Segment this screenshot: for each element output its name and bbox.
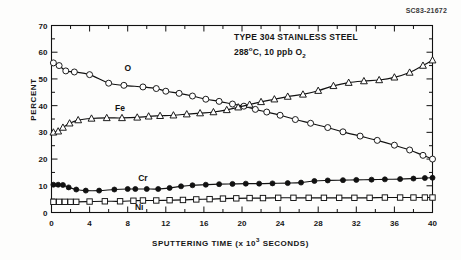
series-marker-ni xyxy=(275,195,280,200)
series-marker-ni xyxy=(102,199,107,204)
series-marker-ni xyxy=(154,198,159,203)
series-marker-o xyxy=(121,82,127,88)
series-marker-o xyxy=(176,90,182,96)
x-tick-label: 8 xyxy=(125,219,129,228)
series-marker-ni xyxy=(62,199,67,204)
series-marker-o xyxy=(203,96,209,102)
series-label-cr: Cr xyxy=(138,173,147,183)
series-marker-o xyxy=(216,98,222,104)
series-marker-cr xyxy=(340,178,345,183)
series-marker-ni xyxy=(207,196,212,201)
series-marker-o xyxy=(56,63,62,69)
series-line-ni xyxy=(53,198,432,202)
series-marker-cr xyxy=(60,182,65,187)
x-tick-label: 28 xyxy=(314,219,323,228)
series-marker-o xyxy=(163,88,169,94)
series-marker-ni xyxy=(117,199,122,204)
y-tick-label: 40 xyxy=(39,101,48,110)
series-marker-ni xyxy=(321,195,326,200)
series-marker-o xyxy=(87,72,93,78)
series-label-fe: Fe xyxy=(115,103,125,113)
series-marker-cr xyxy=(422,176,427,181)
x-tick-label: 40 xyxy=(428,219,437,228)
series-marker-cr xyxy=(257,181,262,186)
series-marker-o xyxy=(430,156,436,162)
series-marker-cr xyxy=(74,187,79,192)
series-line-o xyxy=(53,63,432,159)
series-marker-cr xyxy=(299,180,304,185)
series-marker-o xyxy=(308,120,314,126)
series-marker-o xyxy=(374,137,380,143)
y-tick-label: 30 xyxy=(39,128,48,137)
series-marker-o xyxy=(50,60,56,66)
series-marker-o xyxy=(357,133,363,139)
y-tick-label: 20 xyxy=(39,155,48,164)
series-marker-ni xyxy=(352,195,357,200)
x-tick-label: 20 xyxy=(238,219,247,228)
x-tick-label: 24 xyxy=(276,219,285,228)
series-marker-cr xyxy=(167,185,172,190)
series-marker-o xyxy=(229,101,235,107)
series-marker-o xyxy=(391,142,397,148)
y-tick-label: 10 xyxy=(39,181,48,190)
series-marker-cr xyxy=(382,177,387,182)
x-tick-label: 16 xyxy=(199,219,208,228)
series-marker-ni xyxy=(367,195,372,200)
series-label-o: O xyxy=(124,63,131,73)
series-marker-ni xyxy=(68,199,73,204)
series-marker-ni xyxy=(291,195,296,200)
series-marker-ni xyxy=(422,195,427,200)
series-label-ni: Ni xyxy=(135,202,144,212)
series-marker-o xyxy=(292,117,298,123)
series-marker-ni xyxy=(56,199,61,204)
series-marker-cr xyxy=(83,188,88,193)
series-marker-cr xyxy=(190,183,195,188)
series-marker-cr xyxy=(230,181,235,186)
x-tick-label: 4 xyxy=(87,219,91,228)
series-marker-ni xyxy=(430,195,435,200)
series-marker-fe xyxy=(429,57,436,63)
series-line-fe xyxy=(53,60,432,132)
x-tick-label: 12 xyxy=(161,219,170,228)
series-marker-ni xyxy=(194,197,199,202)
y-tick-label: 60 xyxy=(39,48,48,57)
series-marker-cr xyxy=(312,178,317,183)
series-marker-ni xyxy=(87,199,92,204)
series-marker-o xyxy=(106,80,112,86)
series-marker-fe xyxy=(66,120,73,126)
series-marker-ni xyxy=(234,196,239,201)
series-marker-ni xyxy=(74,199,79,204)
series-marker-cr xyxy=(56,182,61,187)
x-tick-label: 32 xyxy=(352,219,361,228)
series-marker-cr xyxy=(369,177,374,182)
y-tick-label: 50 xyxy=(39,74,48,83)
series-marker-fe xyxy=(420,62,427,68)
series-marker-cr xyxy=(203,182,208,187)
series-marker-cr xyxy=(285,181,290,186)
series-marker-fe xyxy=(60,124,67,130)
series-marker-ni xyxy=(167,198,172,203)
series-marker-ni xyxy=(260,195,265,200)
series-marker-cr xyxy=(144,186,149,191)
series-marker-cr xyxy=(270,181,275,186)
figure-container: SC83-21672 TYPE 304 STAINLESS STEEL 288o… xyxy=(0,0,461,260)
series-marker-ni xyxy=(51,199,56,204)
series-marker-cr xyxy=(354,177,359,182)
series-marker-o xyxy=(63,68,69,74)
series-marker-cr xyxy=(112,187,117,192)
series-marker-o xyxy=(407,147,413,153)
series-marker-ni xyxy=(411,195,416,200)
series-marker-o xyxy=(325,125,331,131)
series-marker-o xyxy=(340,129,346,135)
series-marker-ni xyxy=(336,195,341,200)
y-tick-label: 70 xyxy=(39,21,48,30)
series-marker-cr xyxy=(325,178,330,183)
series-marker-cr xyxy=(66,185,71,190)
series-marker-o xyxy=(153,86,159,92)
series-marker-cr xyxy=(411,176,416,181)
series-marker-ni xyxy=(247,195,252,200)
series-marker-ni xyxy=(397,195,402,200)
series-marker-o xyxy=(264,109,270,115)
series-line-cr xyxy=(53,178,432,191)
series-marker-o xyxy=(277,112,283,118)
